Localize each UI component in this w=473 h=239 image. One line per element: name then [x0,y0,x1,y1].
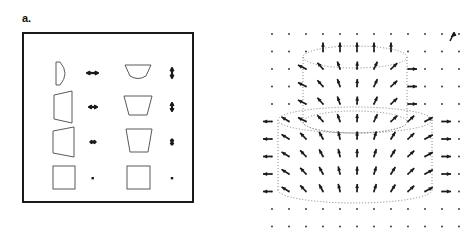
grid-dot [373,208,375,210]
grid-dot [407,226,409,228]
vector-head [447,172,451,176]
grid-dot [458,33,460,35]
grid-dot [288,226,290,228]
grid-dot [441,208,443,210]
vector-head [413,67,417,71]
vector-head [338,43,342,47]
grid-dot [458,103,460,105]
vector-field-dot-grid [271,33,460,227]
vector-head [355,79,359,83]
grid-dot [271,86,273,88]
vector-head [355,131,359,135]
grid-dot [458,51,460,53]
vector-head [355,96,359,100]
vector-head [355,184,359,188]
grid-dot [424,33,426,35]
grid-dot [458,173,460,175]
grid-dot [458,68,460,70]
grid-dot [458,138,460,140]
grid-dot [288,103,290,105]
grid-dot [322,33,324,35]
vector-head [263,120,267,124]
grid-dot [441,226,443,228]
grid-dot [288,208,290,210]
lower-cylinder-bottom-arc [278,190,432,203]
grid-dot [373,226,375,228]
grid-dot [458,121,460,123]
vector-head [337,62,341,67]
grid-dot [305,208,307,210]
grid-dot [390,208,392,210]
grid-dot [271,208,273,210]
scale-reference-arrow [450,32,456,41]
grid-dot [288,68,290,70]
grid-dot [373,33,375,35]
vector-head [389,43,393,47]
upper-cylinder-bottom-arc-right [355,122,407,133]
vector-head [373,149,377,154]
vector-head [373,184,377,189]
grid-dot [390,33,392,35]
grid-dot [390,226,392,228]
grid-dot [424,68,426,70]
grid-dot [271,51,273,53]
grid-dot [458,226,460,228]
vector-head [321,43,325,47]
vector-head [263,190,267,194]
grid-dot [339,226,341,228]
grid-dot [288,86,290,88]
vector-head [355,43,359,47]
panel-b-graphics [0,0,473,239]
grid-dot [322,208,324,210]
grid-dot [441,51,443,53]
grid-dot [288,33,290,35]
grid-dot [407,51,409,53]
vector-head [337,79,341,84]
vector-head [263,137,267,141]
grid-dot [458,208,460,210]
grid-dot [407,208,409,210]
vector-head [447,137,451,141]
grid-dot [441,33,443,35]
vector-head [355,114,359,118]
grid-dot [271,33,273,35]
grid-dot [356,33,358,35]
vector-head [413,102,417,106]
grid-dot [356,226,358,228]
grid-dot [288,51,290,53]
panel-b: b. [237,0,473,239]
vector-head [263,155,267,159]
grid-dot [271,226,273,228]
grid-dot [305,33,307,35]
grid-dot [271,68,273,70]
grid-dot [424,226,426,228]
vector-head [263,172,267,176]
grid-dot [339,33,341,35]
grid-dot [424,103,426,105]
vector-head [337,114,341,119]
grid-dot [441,86,443,88]
grid-dot [322,226,324,228]
vector-head [372,43,376,47]
grid-dot [458,86,460,88]
displacement-vectors [263,43,451,194]
grid-dot [424,208,426,210]
vector-head [355,149,359,153]
grid-dot [458,191,460,193]
vector-head [355,166,359,170]
grid-dot [305,51,307,53]
grid-dot [441,103,443,105]
grid-dot [424,51,426,53]
grid-dot [356,208,358,210]
grid-dot [441,68,443,70]
vector-head [447,155,451,159]
vector-head [355,61,359,65]
grid-dot [305,226,307,228]
vector-head [413,85,417,89]
grid-dot [424,86,426,88]
grid-dot [407,33,409,35]
vector-head [447,120,451,124]
vector-head [373,166,377,171]
grid-dot [339,208,341,210]
grid-dot [458,156,460,158]
